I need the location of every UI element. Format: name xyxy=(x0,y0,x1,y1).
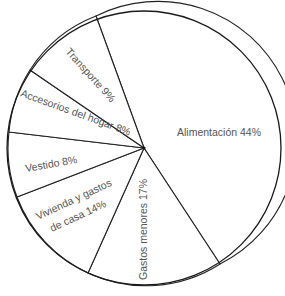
pie-chart: Alimentación 44% Gastos menores 17% Vivi… xyxy=(0,0,285,296)
label-gastos-menores: Gastos menores 17% xyxy=(137,179,149,280)
label-alimentacion: Alimentación 44% xyxy=(177,126,261,138)
pie-center-dot xyxy=(142,146,145,149)
